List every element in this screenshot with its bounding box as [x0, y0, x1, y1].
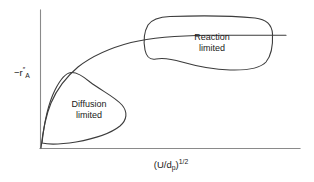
x-axis-label-open: (U/d [154, 159, 172, 170]
reaction-limited-label-line2: limited [181, 43, 243, 54]
y-axis-label-subscript: A [25, 72, 30, 79]
x-axis-label: (U/dp)1/2 [128, 156, 214, 173]
y-axis-label: −r″A [14, 64, 30, 81]
y-axis-label-prefix: −r [14, 67, 23, 78]
diffusion-limited-label-line2: limited [58, 110, 120, 121]
reaction-limited-label-line1: Reaction [181, 32, 243, 43]
figure-canvas [0, 0, 314, 182]
diffusion-limited-label-line1: Diffusion [58, 99, 120, 110]
x-axis-label-exponent: 1/2 [179, 158, 188, 165]
reaction-limited-label: Reaction limited [181, 32, 243, 53]
rate-curve [41, 35, 286, 148]
figure-container: −r″A (U/dp)1/2 Diffusion limited Reactio… [0, 0, 314, 182]
diffusion-limited-label: Diffusion limited [58, 99, 120, 120]
